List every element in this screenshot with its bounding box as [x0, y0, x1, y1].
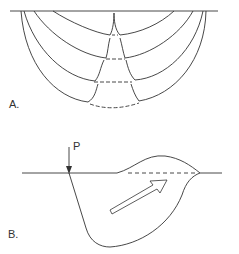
failure-surface-2: [34, 11, 110, 58]
failure-surface-3-right: [126, 11, 203, 80]
dashed-base-4: [90, 103, 139, 108]
flow-direction-arrow-icon: [110, 180, 167, 214]
panel-a-label: A.: [9, 98, 19, 110]
diagram-canvas: [0, 0, 239, 254]
failure-surface-4-right: [131, 11, 206, 101]
panel-b-label: B.: [8, 228, 18, 240]
failure-surface-3: [24, 11, 104, 81]
failure-surface-1: [53, 11, 174, 35]
failure-surface-2-right: [120, 11, 193, 58]
failure-surface-4: [21, 11, 98, 102]
load-label: P: [73, 140, 80, 152]
panel-b-diagram: [22, 147, 222, 247]
panel-a-diagram: [10, 11, 218, 108]
